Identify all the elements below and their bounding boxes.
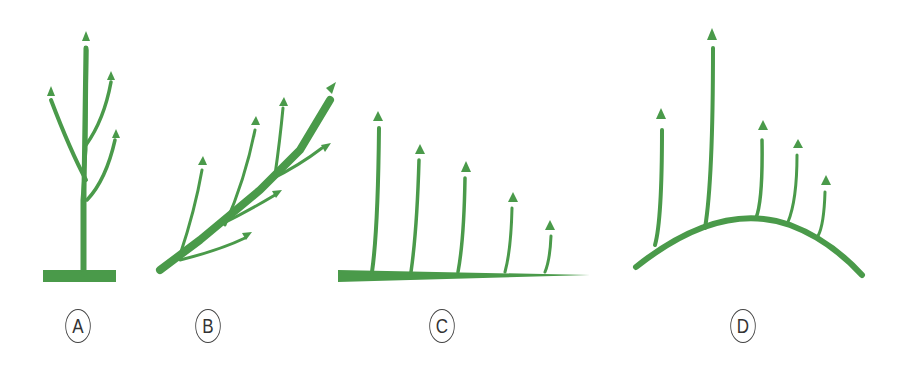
- panel-c-plant: [338, 111, 590, 282]
- panel-b-plant: [160, 82, 336, 270]
- panel-c-label: C: [429, 309, 455, 343]
- panel-a-plant: [43, 31, 120, 282]
- panel-a-label: A: [65, 309, 91, 343]
- panel-b-label: B: [195, 309, 221, 343]
- panel-d-label: D: [730, 309, 756, 343]
- panel-d-plant: [636, 28, 862, 275]
